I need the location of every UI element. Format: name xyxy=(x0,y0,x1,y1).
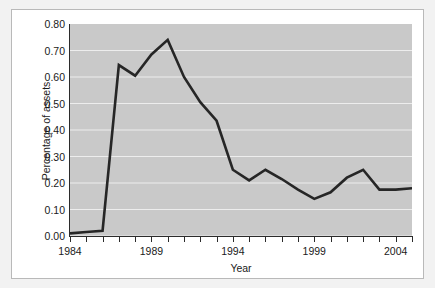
x-tick-mark xyxy=(363,237,364,242)
y-tick-label: 0.50 xyxy=(23,99,65,109)
x-tick-mark xyxy=(184,237,185,242)
x-tick-mark xyxy=(70,237,71,242)
y-tick-label: 0.20 xyxy=(23,178,65,188)
chart-screenshot: Percentage of assets 0.000.100.200.300.4… xyxy=(0,0,435,288)
x-tick-mark xyxy=(217,237,218,242)
y-tick-label: 0.30 xyxy=(23,152,65,162)
x-tick-mark xyxy=(86,237,87,242)
x-tick-mark xyxy=(200,237,201,242)
y-tick-label: 0.00 xyxy=(23,231,65,241)
y-tick-label: 0.10 xyxy=(23,205,65,215)
x-tick-mark xyxy=(314,237,315,242)
y-tick-label: 0.60 xyxy=(23,72,65,82)
x-tick-mark xyxy=(265,237,266,242)
y-tick-label: 0.80 xyxy=(23,19,65,29)
x-tick-mark xyxy=(282,237,283,242)
x-tick-mark xyxy=(151,237,152,242)
x-tick-label: 1989 xyxy=(131,245,171,257)
x-tick-mark xyxy=(119,237,120,242)
x-tick-label: 1984 xyxy=(50,245,90,257)
data-series-group xyxy=(70,40,412,233)
x-tick-mark xyxy=(103,237,104,242)
x-axis-line xyxy=(69,236,413,237)
y-tick-label: 0.70 xyxy=(23,46,65,56)
x-tick-mark xyxy=(396,237,397,242)
plot-svg xyxy=(70,24,412,236)
data-line-0 xyxy=(70,40,412,233)
x-tick-mark xyxy=(298,237,299,242)
x-tick-mark xyxy=(412,237,413,242)
x-tick-mark xyxy=(135,237,136,242)
x-tick-mark xyxy=(233,237,234,242)
x-tick-label: 2004 xyxy=(376,245,416,257)
x-tick-label: 1994 xyxy=(213,245,253,257)
x-tick-mark xyxy=(249,237,250,242)
y-axis-line xyxy=(69,24,70,237)
x-tick-label: 1999 xyxy=(294,245,334,257)
gridlines xyxy=(70,24,412,236)
plot-area xyxy=(70,24,412,236)
x-tick-mark xyxy=(347,237,348,242)
x-tick-mark xyxy=(379,237,380,242)
x-tick-mark xyxy=(331,237,332,242)
y-tick-label: 0.40 xyxy=(23,125,65,135)
x-tick-mark xyxy=(168,237,169,242)
x-axis-title: Year xyxy=(70,262,412,274)
